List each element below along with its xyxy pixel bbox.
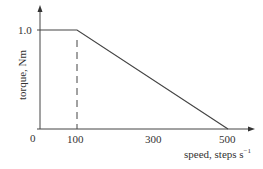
x-tick-label-0: 0 — [30, 133, 36, 144]
x-axis-arrow-icon — [248, 127, 255, 132]
x-axis-label-exponent: −1 — [244, 147, 251, 155]
x-tick-label-500: 500 — [219, 134, 236, 145]
torque-curve — [40, 30, 228, 129]
x-axis-label-text: speed, steps s — [184, 148, 244, 160]
x-tick-label-300: 300 — [145, 134, 162, 145]
y-axis-arrow-icon — [38, 5, 43, 12]
y-tick-label-1.0: 1.0 — [18, 25, 32, 36]
x-axis-label: speed, steps s−1 — [184, 148, 251, 160]
x-tick-label-100: 100 — [67, 134, 84, 145]
y-axis-label: torque, Nm — [17, 50, 28, 100]
